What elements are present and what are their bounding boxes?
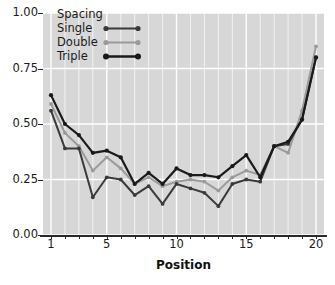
- data-point: [188, 173, 192, 177]
- data-point: [175, 182, 179, 186]
- data-point: [272, 144, 276, 148]
- y-axis-tick-labels: 0.000.250.500.751.00: [0, 0, 38, 285]
- data-point: [314, 55, 318, 59]
- x-axis-tick-mark: [93, 235, 94, 239]
- y-axis-tick-label: 0.25: [2, 174, 38, 186]
- x-axis-tick-mark: [232, 235, 233, 239]
- data-point: [77, 133, 81, 137]
- x-axis-tick-mark: [149, 235, 150, 239]
- data-point: [244, 169, 248, 173]
- data-point: [119, 178, 123, 182]
- data-point: [286, 151, 290, 155]
- x-axis-tick-mark: [79, 235, 80, 239]
- data-point: [314, 44, 318, 48]
- x-axis-tick-mark: [260, 235, 261, 239]
- legend-item-single: Single: [57, 21, 143, 35]
- data-point: [189, 186, 193, 190]
- y-axis-tick-mark: [38, 124, 43, 125]
- data-point: [244, 178, 248, 182]
- x-axis-tick-mark: [218, 235, 219, 239]
- data-point: [133, 193, 137, 197]
- data-point: [63, 122, 67, 126]
- data-point: [49, 93, 53, 97]
- x-axis-tick-mark: [121, 235, 122, 239]
- legend-title: Spacing: [57, 8, 143, 21]
- data-point: [77, 147, 81, 151]
- y-axis-tick-label: 0.00: [2, 229, 38, 241]
- x-axis-tick-mark: [65, 235, 66, 239]
- data-point: [105, 155, 109, 159]
- data-point: [147, 184, 151, 188]
- data-point: [49, 102, 53, 106]
- x-axis-tick-mark: [135, 235, 136, 239]
- x-axis-tick-mark: [163, 235, 164, 239]
- y-axis-tick-mark: [38, 180, 43, 181]
- y-axis-tick-label: 1.00: [2, 7, 38, 19]
- data-point: [300, 117, 304, 121]
- data-point: [147, 171, 151, 175]
- legend-item-triple: Triple: [57, 49, 143, 63]
- x-axis-tick-mark: [288, 235, 289, 239]
- y-axis-tick-label: 0.75: [2, 63, 38, 75]
- data-point: [174, 166, 178, 170]
- data-point: [161, 202, 165, 206]
- x-axis-title: Position: [43, 259, 324, 271]
- data-point: [286, 140, 290, 144]
- data-point: [216, 204, 220, 208]
- x-axis-tick-mark: [190, 235, 191, 239]
- y-axis-tick-label: 0.50: [2, 118, 38, 130]
- legend-label-single: Single: [57, 21, 101, 35]
- x-axis-tick-label: 20: [304, 239, 328, 251]
- data-point: [216, 189, 220, 193]
- data-point: [91, 151, 95, 155]
- legend-swatch-triple: [101, 51, 143, 62]
- x-axis-tick-label: 5: [95, 239, 119, 251]
- data-point: [203, 191, 207, 195]
- legend: Spacing Single Double Triple: [57, 8, 143, 63]
- data-point: [91, 169, 95, 173]
- data-point: [258, 175, 262, 179]
- data-point: [63, 131, 67, 135]
- y-axis-tick-mark: [38, 235, 43, 236]
- x-axis-tick-label: 1: [39, 239, 63, 251]
- data-point: [119, 155, 123, 159]
- data-point: [202, 173, 206, 177]
- data-point: [63, 147, 67, 151]
- data-point: [258, 180, 262, 184]
- legend-swatch-single: [101, 23, 143, 34]
- data-point: [119, 167, 123, 171]
- data-point: [105, 175, 109, 179]
- x-axis-tick-label: 10: [165, 239, 189, 251]
- data-point: [160, 182, 164, 186]
- data-point: [203, 180, 207, 184]
- legend-swatch-double: [101, 37, 143, 48]
- data-point: [105, 149, 109, 153]
- data-point: [230, 182, 234, 186]
- y-axis-tick-mark: [38, 13, 43, 14]
- x-axis-tick-mark: [204, 235, 205, 239]
- legend-label-double: Double: [57, 35, 101, 49]
- data-point: [133, 182, 137, 186]
- x-axis-tick-mark: [274, 235, 275, 239]
- data-point: [189, 178, 193, 182]
- data-point: [216, 175, 220, 179]
- x-axis-tick-label: 15: [234, 239, 258, 251]
- x-axis-tick-mark: [302, 235, 303, 239]
- series-line-double: [51, 46, 316, 190]
- series-line-single: [51, 57, 316, 206]
- data-point: [49, 109, 53, 113]
- y-axis-tick-mark: [38, 69, 43, 70]
- data-point: [147, 175, 151, 179]
- data-point: [91, 195, 95, 199]
- legend-item-double: Double: [57, 35, 143, 49]
- data-point: [230, 175, 234, 179]
- data-point: [244, 153, 248, 157]
- line-chart: 0.000.250.500.751.00 15101520 Position S…: [0, 0, 335, 285]
- data-point: [230, 164, 234, 168]
- legend-label-triple: Triple: [57, 49, 101, 63]
